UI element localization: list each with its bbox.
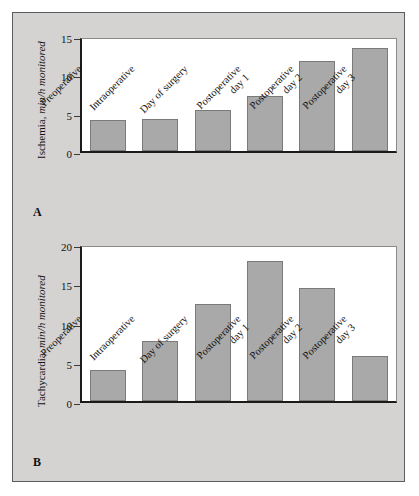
panel-b-letter: B bbox=[33, 455, 41, 470]
panel-a: Ischemia, min/h monitored 051015 Preoper… bbox=[13, 19, 404, 243]
panel-b-axis-title-italic: min/h monitored bbox=[35, 275, 47, 348]
panel-a-category-labels: PreoperativeIntraoperativeDay of surgery… bbox=[80, 155, 397, 235]
bar-6 bbox=[352, 356, 388, 401]
ytick-15 bbox=[74, 39, 80, 40]
ytick-label-15: 15 bbox=[61, 280, 72, 292]
ytick-15 bbox=[74, 286, 80, 287]
ytick-label-20: 20 bbox=[61, 241, 72, 253]
ytick-20 bbox=[74, 247, 80, 248]
figure-container: Ischemia, min/h monitored 051015 Preoper… bbox=[12, 12, 405, 482]
panel-b-category-labels: PreoperativeIntraoperativeDay of surgery… bbox=[80, 405, 397, 485]
panel-a-letter: A bbox=[33, 205, 42, 220]
panel-b: Tachycardia, min/h monitored 05101520 Pr… bbox=[13, 243, 404, 483]
ytick-label-15: 15 bbox=[61, 33, 72, 45]
ytick-label-0: 0 bbox=[67, 148, 73, 160]
bar-6 bbox=[352, 48, 388, 151]
panel-b-axis-title: Tachycardia, min/h monitored bbox=[35, 275, 47, 407]
ytick-label-0: 0 bbox=[67, 398, 73, 410]
